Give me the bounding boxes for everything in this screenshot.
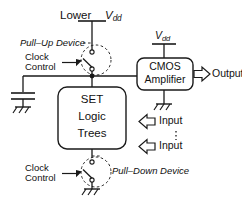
- lower-label: Lower: [60, 9, 91, 21]
- ground-pull-down: [82, 189, 100, 195]
- ground-amplifier: [154, 104, 172, 110]
- clock-control-top-line2: Control: [25, 62, 56, 73]
- vdd-top-symbol: V: [105, 9, 113, 21]
- pull-up-device-label: Pull–Up Device: [20, 38, 85, 48]
- cmos-amplifier-line2: Amplifier: [139, 74, 191, 85]
- clock-control-bottom-line2: Control: [25, 173, 56, 184]
- clock-control-arrow-top: [62, 59, 82, 66]
- storage-capacitor: [11, 93, 35, 107]
- input-arrow-bottom: [139, 140, 155, 154]
- vdd-amp-symbol: V: [155, 29, 162, 41]
- pull-down-device-label: Pull–Down Device: [112, 166, 189, 176]
- vdd-amplifier-supply: [152, 44, 176, 58]
- ground-capacitor: [13, 107, 31, 113]
- output-arrow: [194, 67, 210, 81]
- cmos-amplifier-line1: CMOS: [140, 61, 190, 72]
- output-label: Output: [212, 68, 242, 79]
- vdd-top-label: Vdd: [105, 9, 121, 24]
- figure-canvas: Lower Vdd Pull–Up Device Clock Control V…: [0, 0, 242, 206]
- set-block-line2: Logic: [58, 110, 126, 122]
- input-top-label: Input: [159, 115, 182, 126]
- clock-control-arrow-bottom: [62, 170, 82, 177]
- vdd-amp-subscript: dd: [162, 34, 170, 43]
- input-arrow-top: [139, 115, 155, 129]
- pull-down-device: [81, 157, 111, 189]
- set-block-line1: SET: [58, 93, 126, 105]
- input-bottom-label: Input: [159, 140, 182, 151]
- pull-up-device: [81, 45, 111, 76]
- set-block-line3: Trees: [58, 127, 126, 139]
- vdd-amplifier-label: Vdd: [155, 30, 170, 43]
- vdd-top-subscript: dd: [113, 14, 122, 23]
